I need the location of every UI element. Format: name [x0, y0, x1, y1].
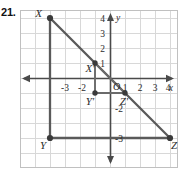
x-axis-label: x — [168, 83, 174, 93]
y-tick-1: 1 — [100, 59, 105, 69]
y-tick-2: 2 — [100, 44, 105, 54]
y-axis-label: y — [115, 13, 121, 23]
coordinate-graph: 4 3 2 1 -2 -3 -3 -2 1 2 3 4 y x O X Y Z … — [20, 10, 178, 168]
y-axis-arrow-up — [107, 13, 114, 21]
y-axis-arrow-down — [107, 156, 114, 164]
x-axis-arrow-left — [22, 75, 30, 82]
origin-label: O — [113, 81, 120, 92]
y-tick-4: 4 — [100, 14, 105, 24]
vertex-label-y-prime: Y' — [86, 95, 95, 107]
vertex-label-z: Z — [171, 139, 178, 151]
vertex-label-x: X — [34, 10, 43, 19]
problem-number: 21. — [1, 6, 16, 18]
x-tick-1: 1 — [123, 83, 128, 93]
y-tick-3: 3 — [100, 29, 105, 39]
vertex-label-x-prime: X' — [84, 62, 95, 74]
vertex-dot-y — [47, 135, 53, 141]
x-tick-neg2: -2 — [78, 83, 86, 93]
graph-svg: 4 3 2 1 -2 -3 -3 -2 1 2 3 4 y x O X Y Z … — [20, 10, 178, 168]
vertex-label-y: Y — [40, 139, 48, 151]
x-tick-3: 3 — [153, 83, 158, 93]
x-tick-2: 2 — [138, 83, 143, 93]
y-tick-neg3: -3 — [115, 134, 123, 144]
vertex-label-z-prime: Z' — [120, 95, 129, 107]
x-tick-neg3: -3 — [61, 83, 69, 93]
vertex-dot-x — [47, 15, 53, 21]
axes — [24, 16, 172, 162]
